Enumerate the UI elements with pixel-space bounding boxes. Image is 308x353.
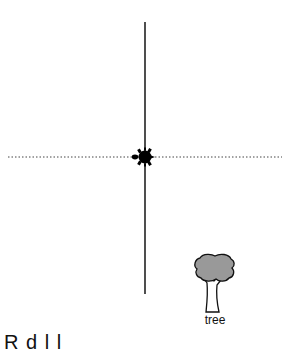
clipped-footer-text: R d l l xyxy=(4,330,304,353)
tree-label: tree xyxy=(200,314,230,327)
tree-icon[interactable] xyxy=(195,254,234,312)
turtle-icon[interactable] xyxy=(132,148,155,167)
